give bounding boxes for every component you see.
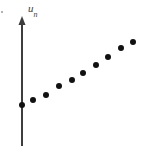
data-point xyxy=(43,92,49,98)
data-point xyxy=(93,62,99,68)
data-point xyxy=(105,54,111,60)
data-point xyxy=(30,97,36,103)
data-point xyxy=(80,70,86,76)
axis-label-base: u xyxy=(28,2,34,14)
axis-label-un: un xyxy=(28,3,38,17)
data-point xyxy=(69,77,75,83)
data-point-group xyxy=(19,39,136,108)
sequence-plot-figure: un xyxy=(0,0,164,146)
axis-group xyxy=(19,16,26,146)
data-point xyxy=(130,39,136,45)
axis-label-subscript: n xyxy=(34,10,38,19)
axis-arrowhead xyxy=(19,16,26,25)
plot-canvas xyxy=(0,0,164,146)
data-point xyxy=(19,102,25,108)
data-point xyxy=(118,45,124,51)
data-point xyxy=(56,83,62,89)
